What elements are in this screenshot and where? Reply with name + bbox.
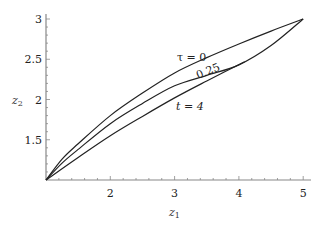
tick-labels: 23451.522.53: [25, 13, 307, 200]
x-tick-label: 2: [107, 187, 114, 200]
curves: [46, 19, 303, 180]
x-tick-label: 3: [171, 187, 178, 200]
curve-series-2: [46, 62, 245, 180]
annotation-tau-0: τ = 0: [177, 51, 206, 64]
y-tick-label: 1.5: [25, 134, 43, 147]
chart: 23451.522.53 τ = 0 0.25 t = 4 z1 z2: [0, 0, 319, 229]
y-axis-label: z2: [11, 94, 23, 108]
y-tick-label: 2.5: [25, 53, 43, 66]
x-tick-label: 4: [235, 187, 242, 200]
x-tick-label: 5: [300, 187, 307, 200]
y-tick-label: 2: [35, 94, 42, 107]
axes: [46, 14, 311, 180]
x-axis-label: z1: [168, 206, 180, 220]
curve-series-1: [46, 19, 303, 180]
annotation-t-4: t = 4: [176, 100, 204, 113]
y-tick-label: 3: [35, 13, 42, 26]
curve-series-0: [46, 19, 303, 180]
